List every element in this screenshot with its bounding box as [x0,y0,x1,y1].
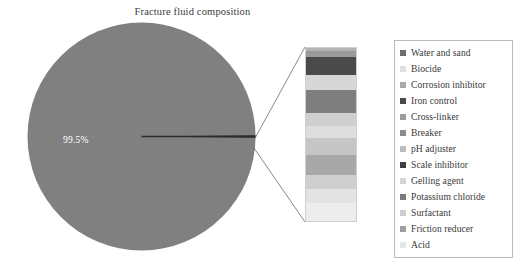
breakout-stacked-bar [305,47,357,222]
legend-swatch-icon [400,210,406,216]
legend-item-label: Cross-linker [411,112,459,122]
legend-item[interactable]: Cross-linker [400,109,508,125]
legend-swatch-icon [400,82,406,88]
legend-item[interactable]: pH adjuster [400,141,508,157]
legend-swatch-icon [400,50,406,56]
legend-item[interactable]: Scale inhibitor [400,157,508,173]
connector-line-top [254,47,305,140]
bar-segment [306,57,356,75]
bar-segment [306,189,356,204]
legend-item-label: Potassium chloride [411,192,485,202]
legend-item-label: Iron control [411,96,457,106]
legend-item[interactable]: Water and sand [400,45,508,61]
legend: Water and sandBiocideCorrosion inhibitor… [394,40,513,258]
bar-segment [306,90,356,113]
legend-item[interactable]: Breaker [400,125,508,141]
legend-item[interactable]: Acid [400,237,508,253]
legend-item-label: Biocide [411,64,441,74]
legend-item-label: Gelling agent [411,176,464,186]
legend-swatch-icon [400,194,406,200]
bar-segment [306,203,356,220]
legend-item-label: Water and sand [411,48,471,58]
bar-segment [306,113,356,127]
legend-swatch-icon [400,130,406,136]
legend-item-label: Corrosion inhibitor [411,80,486,90]
pie-chart [27,22,256,251]
legend-item[interactable]: Biocide [400,61,508,77]
connector-line-bottom [254,148,305,222]
bar-segment [306,126,356,138]
legend-item[interactable]: Potassium chloride [400,189,508,205]
chart-title: Fracture fluid composition [0,6,385,17]
pie-percentage-label: 99.5% [63,135,89,145]
legend-swatch-icon [400,226,406,232]
bar-segment [306,75,356,90]
legend-swatch-icon [400,66,406,72]
legend-item[interactable]: Surfactant [400,205,508,221]
pie-svg [27,22,256,251]
legend-swatch-icon [400,162,406,168]
legend-item-label: Scale inhibitor [411,160,468,170]
chart-figure: Fracture fluid composition 99.5% Water a… [0,0,521,269]
legend-item-label: Acid [411,240,430,250]
legend-item-label: Surfactant [411,208,451,218]
legend-item-label: Breaker [411,128,442,138]
bar-segment [306,138,356,155]
legend-swatch-icon [400,242,406,248]
legend-swatch-icon [400,98,406,104]
legend-item-label: Friction reducer [411,224,473,234]
legend-item[interactable]: Corrosion inhibitor [400,77,508,93]
legend-swatch-icon [400,114,406,120]
legend-item-label: pH adjuster [411,144,456,154]
bar-segment [306,155,356,175]
legend-swatch-icon [400,146,406,152]
legend-swatch-icon [400,178,406,184]
legend-item[interactable]: Iron control [400,93,508,109]
bar-segment [306,175,356,189]
legend-item[interactable]: Friction reducer [400,221,508,237]
legend-item[interactable]: Gelling agent [400,173,508,189]
